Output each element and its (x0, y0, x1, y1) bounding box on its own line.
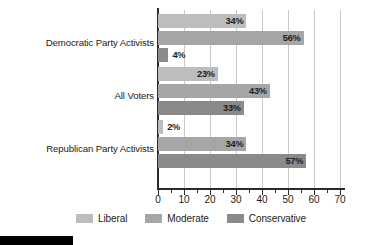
bar-value-label: 57% (285, 156, 303, 166)
category-label-democratic-party-activists: Democratic Party Activists (46, 37, 154, 48)
bar-democratic-party-activists-conservative: 4% (158, 48, 168, 62)
x-tick-15 (197, 190, 198, 193)
bar-all-voters-liberal: 23% (158, 67, 218, 81)
bar-value-label: 2% (167, 122, 180, 132)
legend-label: Conservative (249, 213, 306, 224)
bar-all-voters-conservative: 33% (158, 101, 244, 115)
x-tick-label-70: 70 (334, 194, 345, 205)
bar-value-label: 34% (226, 16, 244, 26)
bar-republican-party-activists-liberal: 2% (158, 120, 163, 134)
x-tick-45 (275, 190, 276, 193)
bar-value-label: 33% (223, 103, 241, 113)
bar-democratic-party-activists-moderate: 56% (158, 31, 304, 45)
bar-value-label: 43% (249, 86, 267, 96)
x-tick-25 (223, 190, 224, 193)
category-label-republican-party-activists: Republican Party Activists (46, 143, 154, 154)
bar-democratic-party-activists-liberal: 34% (158, 14, 246, 28)
bar-value-label: 23% (197, 69, 215, 79)
bar-all-voters-moderate: 43% (158, 84, 270, 98)
bar-republican-party-activists-conservative: 57% (158, 154, 306, 168)
bar-value-label: 56% (283, 33, 301, 43)
legend-item-liberal[interactable]: Liberal (76, 213, 127, 224)
x-tick-label-40: 40 (256, 194, 267, 205)
bar-republican-party-activists-moderate: 34% (158, 137, 246, 151)
bar-chart: Democratic Party Activists All Voters Re… (0, 0, 382, 245)
footer-black-bar (0, 236, 73, 245)
x-tick-label-60: 60 (308, 194, 319, 205)
bar-value-label: 34% (226, 139, 244, 149)
x-tick-label-30: 30 (230, 194, 241, 205)
x-tick-5 (171, 190, 172, 193)
legend-swatch-conservative (227, 214, 244, 223)
legend-swatch-liberal (76, 214, 93, 223)
chart-legend: LiberalModerateConservative (0, 213, 382, 224)
bar-value-label: 4% (172, 50, 185, 60)
x-tick-label-0: 0 (155, 194, 161, 205)
x-tick-label-50: 50 (282, 194, 293, 205)
x-tick-label-10: 10 (178, 194, 189, 205)
x-tick-55 (301, 190, 302, 193)
legend-item-moderate[interactable]: Moderate (145, 213, 208, 224)
category-label-all-voters: All Voters (114, 90, 154, 101)
legend-label: Liberal (98, 213, 127, 224)
legend-item-conservative[interactable]: Conservative (227, 213, 306, 224)
gridline-70 (340, 10, 341, 188)
x-tick-label-20: 20 (204, 194, 215, 205)
gridline-60 (314, 10, 315, 188)
x-tick-35 (249, 190, 250, 193)
x-axis-line (157, 188, 345, 190)
plot-area: 34%56%4%23%43%33%2%34%57% (158, 10, 340, 188)
legend-label: Moderate (167, 213, 208, 224)
x-tick-65 (327, 190, 328, 193)
legend-swatch-moderate (145, 214, 162, 223)
